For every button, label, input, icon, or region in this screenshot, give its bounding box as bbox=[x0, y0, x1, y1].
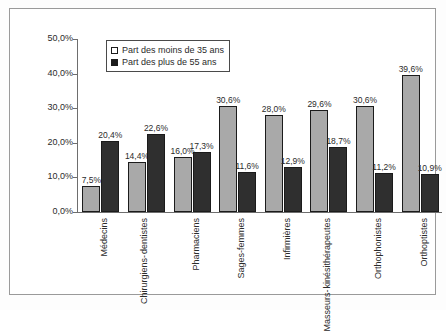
bar-value-label: 18,7% bbox=[322, 136, 354, 146]
bar-moins-35 bbox=[402, 75, 420, 212]
category-label-line: Chirurgiens- bbox=[139, 255, 150, 304]
y-axis-tick-label: 0,0% bbox=[29, 206, 73, 216]
y-axis-tick-label: 10,0% bbox=[29, 171, 73, 181]
legend-label-moins-35: Part des moins de 35 ans bbox=[122, 45, 224, 55]
bar-plus-55 bbox=[421, 174, 439, 212]
bar-moins-35 bbox=[174, 157, 192, 212]
bar-value-label: 17,3% bbox=[186, 141, 218, 151]
bar-value-label: 11,6% bbox=[231, 161, 263, 171]
legend-item: Part des plus de 55 ans bbox=[111, 56, 224, 68]
y-axis-tick-label: 20,0% bbox=[29, 137, 73, 147]
bar-plus-55 bbox=[147, 134, 165, 212]
category-label-line: Médecins bbox=[99, 218, 110, 257]
bar-moins-35 bbox=[128, 162, 146, 212]
bar-value-label: 39,6% bbox=[395, 64, 427, 74]
category-label-line: Orthoptistes bbox=[419, 218, 430, 267]
category-label-line: dentistes bbox=[139, 218, 150, 254]
bar-moins-35 bbox=[219, 106, 237, 212]
category-label-line: Pharmaciens bbox=[191, 218, 202, 271]
bar-value-label: 28,0% bbox=[258, 104, 290, 114]
legend-item: Part des moins de 35 ans bbox=[111, 44, 224, 56]
y-axis-tick-label: 40,0% bbox=[29, 68, 73, 78]
y-axis-tick bbox=[73, 212, 78, 213]
category-label-line: Sages-femmes bbox=[236, 218, 247, 279]
bar-value-label: 12,9% bbox=[277, 156, 309, 166]
category-label-line: Masseurs- bbox=[322, 290, 333, 332]
legend-swatch-moins-35 bbox=[111, 47, 118, 54]
bar-value-label: 29,6% bbox=[303, 99, 335, 109]
y-axis-tick-label: 30,0% bbox=[29, 102, 73, 112]
category-label-line: kinésithérapeutes bbox=[322, 218, 333, 289]
legend-swatch-plus-55 bbox=[111, 59, 118, 66]
bar-plus-55 bbox=[101, 141, 119, 212]
legend-label-plus-55: Part des plus de 55 ans bbox=[122, 57, 217, 67]
bar-plus-55 bbox=[375, 173, 393, 212]
x-axis-line bbox=[77, 212, 442, 213]
chart-legend: Part des moins de 35 ans Part des plus d… bbox=[106, 40, 230, 72]
chart-frame: 0,0%10,0%20,0%30,0%40,0%50,0% 7,5%20,4%1… bbox=[9, 8, 436, 295]
bar-moins-35 bbox=[82, 186, 100, 212]
bar-value-label: 22,6% bbox=[140, 123, 172, 133]
category-label-line: Orthophonistes bbox=[373, 218, 384, 279]
bar-moins-35 bbox=[310, 110, 328, 212]
bar-value-label: 10,9% bbox=[414, 163, 446, 173]
bar-plus-55 bbox=[329, 147, 347, 212]
category-label-line: Infirmières bbox=[282, 218, 293, 260]
bar-plus-55 bbox=[284, 167, 302, 212]
bar-plus-55 bbox=[238, 172, 256, 212]
bar-value-label: 30,6% bbox=[212, 95, 244, 105]
bar-value-label: 30,6% bbox=[349, 95, 381, 105]
y-axis-tick-label: 50,0% bbox=[29, 33, 73, 43]
bar-plus-55 bbox=[193, 152, 211, 212]
bar-value-label: 11,2% bbox=[368, 162, 400, 172]
bar-moins-35 bbox=[356, 106, 374, 212]
bar-value-label: 20,4% bbox=[94, 130, 126, 140]
